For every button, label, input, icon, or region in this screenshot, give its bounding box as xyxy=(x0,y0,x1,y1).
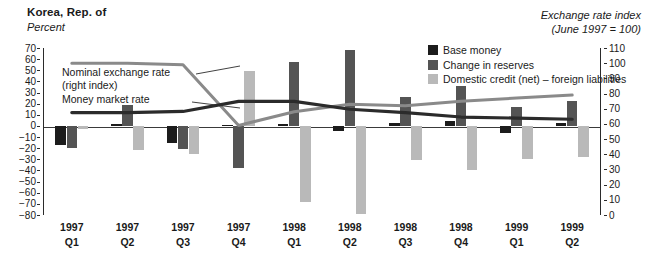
left-axis-tick-label-mark xyxy=(37,115,40,116)
x-axis-label-year: 1999 xyxy=(544,220,600,235)
left-axis-tick-label: −30 xyxy=(19,154,36,165)
x-axis-label-quarter: Q1 xyxy=(44,235,100,250)
left-axis-tick-label: 50 xyxy=(25,65,36,76)
left-axis-tick-label: −50 xyxy=(19,176,36,187)
right-axis-tick-label: 40 xyxy=(609,149,620,160)
x-axis-label-quarter: Q2 xyxy=(322,235,378,250)
x-axis-label: 1999Q1 xyxy=(489,220,545,250)
left-axis-tick-label-mark xyxy=(37,126,40,127)
left-axis-tick-label: 20 xyxy=(25,98,36,109)
x-axis-label: 1999Q2 xyxy=(544,220,600,250)
x-axis-label-year: 1997 xyxy=(100,220,156,235)
right-axis-tick-label-mark xyxy=(604,109,607,110)
left-axis-tick-label-mark xyxy=(37,204,40,205)
right-axis-tick-label-mark xyxy=(604,94,607,95)
left-axis-tick-label-mark xyxy=(37,159,40,160)
x-axis-label-year: 1998 xyxy=(378,220,434,235)
chart-header-right: Exchange rate index (June 1997 = 100) xyxy=(541,8,641,36)
x-axis-label: 1997Q3 xyxy=(155,220,211,250)
x-axis-label: 1998Q2 xyxy=(322,220,378,250)
x-axis-label: 1998Q4 xyxy=(433,220,489,250)
left-axis-unit-label: Percent xyxy=(27,21,106,34)
chart-figure: Korea, Rep. of Percent Exchange rate ind… xyxy=(0,0,653,265)
left-axis-tick-label-mark xyxy=(37,137,40,138)
left-axis-tick-label: 30 xyxy=(25,87,36,98)
x-axis-label: 1997Q1 xyxy=(44,220,100,250)
x-axis-label-quarter: Q2 xyxy=(100,235,156,250)
right-axis-tick-label: 0 xyxy=(609,210,615,221)
left-axis-tick-label-mark xyxy=(37,215,40,216)
x-axis-label-year: 1997 xyxy=(211,220,267,235)
page-title: Korea, Rep. of xyxy=(27,6,106,19)
x-axis-label: 1997Q2 xyxy=(100,220,156,250)
left-axis-tick-label-mark xyxy=(37,93,40,94)
right-axis-tick-label: 70 xyxy=(609,103,620,114)
left-axis-tick-label: 0 xyxy=(30,120,36,131)
left-axis-tick-label-mark xyxy=(37,48,40,49)
right-axis-tick-label: 100 xyxy=(609,58,626,69)
right-axis-line xyxy=(600,48,601,215)
left-axis-tick-label: −10 xyxy=(19,132,36,143)
right-axis-tick-label: 110 xyxy=(609,43,625,54)
annotation-ner-line1: Nominal exchange rate xyxy=(62,66,170,78)
right-axis-tick-label: 10 xyxy=(609,194,620,205)
annotation-nominal-exchange-rate: Nominal exchange rate (right index) xyxy=(62,66,170,91)
left-axis-tick-label-mark xyxy=(37,104,40,105)
x-axis-label: 1998Q1 xyxy=(266,220,322,250)
x-axis-label-year: 1997 xyxy=(155,220,211,235)
x-axis-label-quarter: Q3 xyxy=(155,235,211,250)
left-axis-tick-label-mark xyxy=(37,193,40,194)
x-axis-label-quarter: Q2 xyxy=(544,235,600,250)
x-axis-labels: 1997Q11997Q21997Q31997Q41998Q11998Q21998… xyxy=(44,220,600,260)
left-axis-tick-label-mark xyxy=(37,170,40,171)
right-axis-tick-label-mark xyxy=(604,185,607,186)
left-axis-tick-label-mark xyxy=(37,59,40,60)
right-axis-unit-line1: Exchange rate index xyxy=(541,8,641,22)
right-axis-tick-label-mark xyxy=(604,48,607,49)
x-axis-label-year: 1997 xyxy=(44,220,100,235)
left-axis-tick-label: 60 xyxy=(25,54,36,65)
right-axis-tick-label: 50 xyxy=(609,134,620,145)
right-axis-tick-label: 90 xyxy=(609,73,620,84)
annotation-money-market-rate: Money market rate xyxy=(62,93,150,106)
left-axis-tick-label: 10 xyxy=(25,109,36,120)
left-axis-tick-label: 70 xyxy=(25,43,36,54)
right-axis-tick-label: 30 xyxy=(609,164,620,175)
annotation-mmr-line1: Money market rate xyxy=(62,93,150,105)
right-axis-tick-label-mark xyxy=(604,63,607,64)
x-axis-label: 1997Q4 xyxy=(211,220,267,250)
right-axis-unit-line2: (June 1997 = 100) xyxy=(541,22,641,36)
right-axis-tick-label-mark xyxy=(604,154,607,155)
left-axis-tick-label: 40 xyxy=(25,76,36,87)
left-axis-tick-label: −60 xyxy=(19,187,36,198)
x-axis-label-year: 1998 xyxy=(322,220,378,235)
right-axis-tick-label-mark xyxy=(604,169,607,170)
x-axis-label-year: 1998 xyxy=(266,220,322,235)
left-axis-tick-label: −80 xyxy=(19,210,36,221)
right-axis-tick-label-mark xyxy=(604,215,607,216)
right-axis-tick-label-mark xyxy=(604,200,607,201)
x-axis-label-year: 1998 xyxy=(433,220,489,235)
right-axis-tick-label: 80 xyxy=(609,88,620,99)
right-axis-tick-label: 60 xyxy=(609,118,620,129)
left-axis-tick-label: −20 xyxy=(19,143,36,154)
right-axis-tick-label: 20 xyxy=(609,179,620,190)
x-axis-label: 1998Q3 xyxy=(378,220,434,250)
left-axis-tick-label: −40 xyxy=(19,165,36,176)
right-axis-tick-label-mark xyxy=(604,78,607,79)
x-axis-label-quarter: Q4 xyxy=(211,235,267,250)
x-axis-label-quarter: Q4 xyxy=(433,235,489,250)
right-axis-tick-label-mark xyxy=(604,139,607,140)
left-axis-tick-label-mark xyxy=(37,148,40,149)
left-axis-tick-label-mark xyxy=(37,70,40,71)
x-axis-label-year: 1999 xyxy=(489,220,545,235)
right-axis-tick-label-mark xyxy=(604,124,607,125)
left-axis-tick-label: −70 xyxy=(19,198,36,209)
annotation-ner-line2: (right index) xyxy=(62,79,117,91)
left-axis-tick-label-mark xyxy=(37,81,40,82)
annotation-leader-line xyxy=(196,66,240,74)
chart-header-left: Korea, Rep. of Percent xyxy=(27,6,106,34)
left-axis-tick-label-mark xyxy=(37,182,40,183)
x-axis-label-quarter: Q1 xyxy=(489,235,545,250)
x-axis-label-quarter: Q1 xyxy=(266,235,322,250)
